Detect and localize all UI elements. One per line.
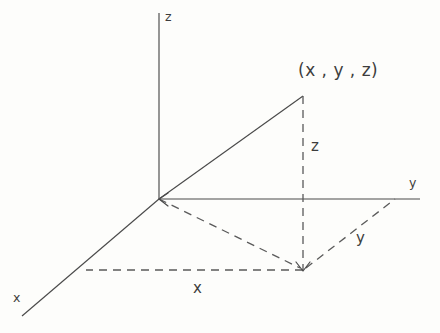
x-component-label: x [193, 281, 202, 296]
x-axis-line [22, 199, 159, 316]
x-axis-label: x [13, 292, 20, 305]
y-component-label: y [356, 231, 365, 246]
z-axis-label: z [165, 11, 172, 24]
y-axis-label: y [409, 177, 416, 190]
projection-ray-dashed-line [159, 199, 300, 268]
y-component-dashed-line [306, 199, 395, 268]
diagram-canvas [0, 0, 440, 333]
z-component-label: z [311, 139, 319, 154]
origin-to-point-ray [159, 96, 303, 199]
point-coordinate-label: (x , y , z) [298, 62, 378, 79]
coordinate-diagram: z y x z y x (x , y , z) [0, 0, 440, 333]
